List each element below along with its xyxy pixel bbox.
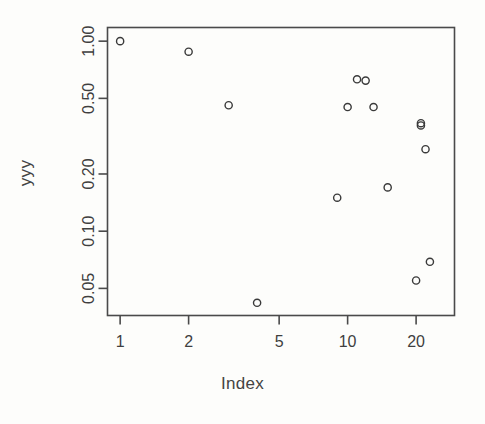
data-point [413, 277, 420, 284]
data-point-series [117, 38, 434, 307]
y-axis-tick-labels: 0.050.100.200.501.00 [80, 25, 97, 303]
data-point [334, 194, 341, 201]
data-point [362, 77, 369, 84]
data-point [422, 146, 429, 153]
y-axis-ticks [99, 41, 108, 288]
x-tick-label: 1 [116, 333, 125, 350]
x-tick-label: 5 [275, 333, 284, 350]
scatter-plot-figure: 1251020 0.050.100.200.501.00 Index yyy [0, 0, 485, 424]
x-axis-title: Index [0, 374, 485, 394]
x-tick-label: 10 [339, 333, 357, 350]
y-tick-label: 0.50 [80, 83, 97, 114]
plot-box [108, 28, 455, 316]
y-axis-title: yyy [16, 123, 36, 223]
x-axis-tick-labels: 1251020 [116, 333, 425, 350]
x-axis-ticks [120, 316, 416, 325]
data-point [344, 103, 351, 110]
x-tick-label: 20 [407, 333, 425, 350]
data-point [370, 103, 377, 110]
data-point [225, 102, 232, 109]
data-point [117, 38, 124, 45]
x-tick-label: 2 [184, 333, 193, 350]
data-point [353, 76, 360, 83]
data-point [185, 48, 192, 55]
plot-canvas: 1251020 0.050.100.200.501.00 [0, 0, 485, 424]
y-tick-label: 0.20 [80, 158, 97, 189]
y-tick-label: 1.00 [80, 25, 97, 56]
data-point [384, 184, 391, 191]
y-tick-label: 0.10 [80, 216, 97, 247]
data-point [253, 299, 260, 306]
data-point [426, 258, 433, 265]
y-tick-label: 0.05 [80, 273, 97, 304]
plot-frame [108, 28, 455, 316]
